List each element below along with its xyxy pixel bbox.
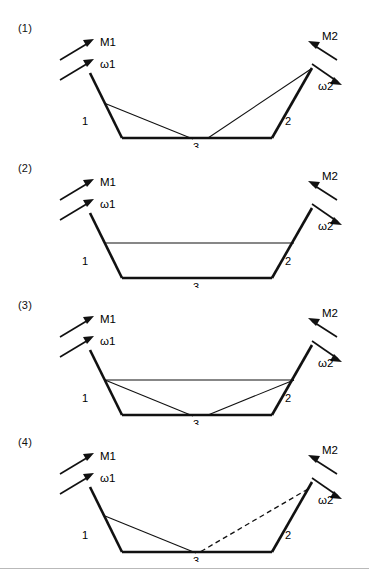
label-m2: M2: [322, 444, 338, 456]
mirror-2: [272, 482, 312, 552]
label-m2: M2: [322, 307, 338, 319]
m1-arrow-icon: [60, 179, 94, 200]
panel-2: (2) M1 ω1 M2: [0, 148, 369, 288]
label-omega2: ω2: [318, 220, 333, 232]
m2-arrow-icon: [308, 455, 337, 474]
label-element-2: 2: [285, 255, 291, 267]
bottom-divider: [0, 568, 369, 569]
panel-1: (1): [0, 8, 369, 148]
m2-arrow-icon: [308, 41, 337, 60]
label-element-3: 3: [193, 141, 199, 148]
mirror-1: [90, 73, 122, 138]
label-element-2: 2: [285, 392, 291, 404]
m2-arrow-icon: [308, 181, 337, 200]
label-element-1: 1: [82, 255, 88, 267]
label-element-1: 1: [82, 115, 88, 127]
label-omega1: ω1: [100, 335, 115, 347]
label-element-2: 2: [285, 115, 291, 127]
panel-4: (4) M1 ω1 M: [0, 422, 369, 562]
label-element-2: 2: [285, 529, 291, 541]
label-m1: M1: [100, 450, 116, 462]
label-element-1: 1: [82, 392, 88, 404]
ray-right-dashed-diagonal: [200, 489, 308, 552]
omega1-arrow-icon: [60, 336, 94, 357]
omega1-arrow-icon: [60, 473, 94, 494]
ray-right-diagonal: [208, 69, 311, 138]
ray-left-diagonal: [105, 380, 193, 416]
label-element-3: 3: [193, 555, 199, 562]
m2-arrow-icon: [308, 318, 337, 337]
label-omega1: ω1: [100, 58, 115, 70]
panel-2-diagram: M1 ω1 M2 ω2 1 2 3: [0, 148, 369, 288]
label-m2: M2: [322, 30, 338, 42]
m1-arrow-icon: [60, 316, 94, 337]
omega1-arrow-icon: [60, 199, 94, 220]
label-m1: M1: [100, 36, 116, 48]
label-omega2: ω2: [318, 80, 333, 92]
m1-arrow-icon: [60, 39, 94, 60]
mirror-1: [90, 350, 122, 415]
mirror-1: [90, 487, 122, 552]
label-m1: M1: [100, 313, 116, 325]
label-m1: M1: [100, 176, 116, 188]
label-m2: M2: [322, 170, 338, 182]
label-omega1: ω1: [100, 472, 115, 484]
panel-1-diagram: M1 ω1 M2 ω2 1 2 3: [0, 8, 369, 148]
label-omega2: ω2: [318, 494, 333, 506]
mirror-2: [272, 68, 312, 138]
figure-container: (1): [0, 0, 369, 578]
omega1-arrow-icon: [60, 59, 94, 80]
ray-left-diagonal: [104, 103, 193, 139]
m1-arrow-icon: [60, 453, 94, 474]
label-omega1: ω1: [100, 198, 115, 210]
panel-3: (3) M1 ω1: [0, 285, 369, 425]
panel-4-diagram: M1 ω1 M2 ω2 1 2 3: [0, 422, 369, 562]
panel-3-diagram: M1 ω1 M2 ω2 1 2 3: [0, 285, 369, 425]
label-element-1: 1: [82, 529, 88, 541]
label-omega2: ω2: [318, 357, 333, 369]
mirror-1: [90, 213, 122, 278]
